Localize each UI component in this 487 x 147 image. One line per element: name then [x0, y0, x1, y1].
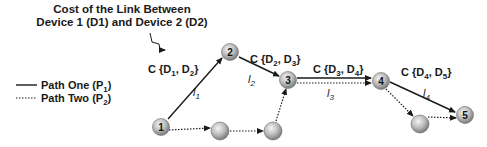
node-path-two-c: [411, 115, 429, 133]
svg-text:4: 4: [378, 76, 384, 87]
annotation-title-line1: Cost of the Link Between: [53, 3, 190, 15]
link-label-l2: l2: [248, 73, 255, 88]
svg-text:3: 3: [285, 75, 291, 86]
node-path-two-a: [211, 122, 229, 140]
annotation-pointer-arrow: [150, 33, 165, 50]
edge-p2b-3: [276, 89, 286, 121]
annotation-title-line2: Device 1 (D1) and Device 2 (D2): [36, 16, 207, 28]
svg-text:1: 1: [158, 122, 164, 133]
link-label-l4: l4: [423, 87, 430, 102]
node-path-two-b: [264, 122, 282, 140]
cost-label-d4-d5: C {D4, D5}: [401, 66, 452, 81]
edge-1-p2a: [169, 128, 210, 130]
edge-4-p2c: [386, 89, 413, 116]
edge-p2c-5: [428, 117, 456, 118]
network-path-diagram: Cost of the Link Between Device 1 (D1) a…: [0, 0, 487, 147]
legend-path-two: Path Two (P2): [41, 92, 112, 107]
svg-text:2: 2: [227, 47, 233, 58]
legend: Path One (P1) Path Two (P2): [16, 79, 112, 107]
cost-label-d1-d2: C {D1, D2}: [148, 63, 199, 78]
node-1: 1: [153, 119, 170, 136]
node-3: 3: [280, 72, 297, 89]
link-label-l1: l1: [193, 86, 200, 101]
node-4: 4: [373, 73, 390, 90]
link-label-l3: l3: [327, 87, 334, 102]
svg-text:5: 5: [462, 110, 468, 121]
node-5: 5: [457, 107, 474, 124]
node-2: 2: [222, 44, 239, 61]
cost-label-d3-d4: C {D3, D4}: [313, 63, 364, 78]
